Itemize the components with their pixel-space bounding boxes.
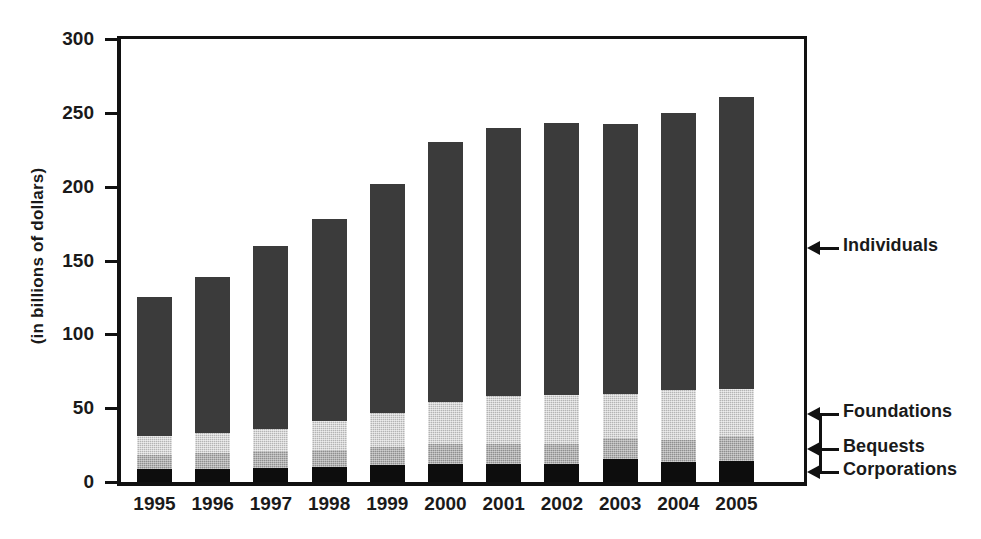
y-axis-tick-label-wrap: 200 [22, 187, 94, 188]
bar-segment-foundations [428, 402, 463, 444]
bar-segment-bequests [312, 450, 347, 467]
x-axis-label-2005: 2005 [707, 494, 767, 513]
bar-segment-bequests [603, 438, 638, 459]
y-axis-tick-label: 200 [28, 177, 94, 196]
stacked-bar-chart: (in billions of dollars) 300250200150100… [0, 0, 981, 539]
x-axis-label-2000: 2000 [416, 494, 476, 513]
bar-segment-foundations [603, 394, 638, 438]
callout-label-corporations: Corporations [843, 459, 957, 480]
callout-line [819, 413, 839, 416]
y-axis-tick [105, 260, 119, 263]
x-axis-label-2001: 2001 [474, 494, 534, 513]
y-axis-tick [105, 333, 119, 336]
bar-segment-corporations [312, 467, 347, 482]
bar-segment-corporations [486, 464, 521, 482]
bar-segment-corporations [253, 468, 288, 482]
bar-segment-bequests [253, 451, 288, 468]
bar-segment-corporations [603, 459, 638, 482]
y-axis-tick-label: 100 [28, 324, 94, 343]
bar-2005 [719, 97, 754, 482]
y-axis-tick-label: 50 [28, 398, 94, 417]
bar-1995 [137, 297, 172, 482]
bar-segment-foundations [486, 396, 521, 444]
y-axis-tick [105, 186, 119, 189]
y-axis-tick [105, 112, 119, 115]
bar-segment-foundations [544, 395, 579, 444]
y-axis-tick-label-wrap: 300 [22, 39, 94, 40]
bar-segment-individuals [195, 277, 230, 434]
callout-label-foundations: Foundations [843, 401, 952, 422]
bar-segment-corporations [370, 465, 405, 482]
x-axis-label-1995: 1995 [125, 494, 185, 513]
bar-1997 [253, 246, 288, 482]
callout-line [819, 448, 839, 451]
bar-segment-individuals [486, 128, 521, 397]
y-axis-tick-label-wrap: 50 [22, 408, 94, 409]
bar-2000 [428, 142, 463, 482]
bar-1999 [370, 184, 405, 482]
callout-stem [819, 413, 822, 472]
y-axis-tick [105, 407, 119, 410]
callout-line [819, 471, 839, 474]
bar-segment-individuals [544, 123, 579, 395]
bar-segment-foundations [312, 421, 347, 450]
bar-1996 [195, 277, 230, 482]
y-axis-tick-label: 300 [28, 29, 94, 48]
bar-segment-corporations [719, 461, 754, 482]
bar-segment-foundations [719, 389, 754, 436]
bar-segment-individuals [428, 142, 463, 402]
callout-label-individuals: Individuals [843, 235, 938, 256]
x-axis-label-1997: 1997 [241, 494, 301, 513]
bar-segment-foundations [370, 413, 405, 447]
bar-segment-foundations [137, 436, 172, 454]
bar-segment-individuals [137, 297, 172, 436]
bar-segment-bequests [719, 436, 754, 460]
bar-segment-corporations [137, 469, 172, 482]
bar-segment-individuals [719, 97, 754, 389]
bar-segment-foundations [661, 390, 696, 439]
bar-segment-individuals [661, 113, 696, 391]
x-axis-label-1996: 1996 [183, 494, 243, 513]
bar-segment-bequests [428, 444, 463, 463]
plot-area [121, 39, 804, 482]
x-axis-label-2003: 2003 [590, 494, 650, 513]
bar-segment-foundations [195, 433, 230, 453]
y-axis-tick [105, 38, 119, 41]
bar-segment-corporations [544, 464, 579, 482]
bar-segment-foundations [253, 429, 288, 451]
x-axis-line [117, 482, 807, 486]
x-axis-label-1998: 1998 [299, 494, 359, 513]
bar-segment-bequests [486, 444, 521, 463]
bar-segment-individuals [312, 219, 347, 421]
bar-segment-bequests [661, 440, 696, 462]
bar-segment-bequests [544, 444, 579, 463]
callout-label-bequests: Bequests [843, 436, 925, 457]
bar-segment-bequests [370, 447, 405, 465]
y-axis-tick-label-wrap: 100 [22, 334, 94, 335]
bar-segment-individuals [370, 184, 405, 413]
bar-segment-corporations [661, 462, 696, 482]
y-axis-tick-label-wrap: 0 [22, 482, 94, 483]
y-axis-tick-label: 150 [28, 251, 94, 270]
x-axis-label-2002: 2002 [532, 494, 592, 513]
bar-segment-bequests [195, 453, 230, 469]
bar-segment-corporations [428, 464, 463, 482]
x-axis-label-2004: 2004 [648, 494, 708, 513]
y-axis-tick-label: 0 [28, 472, 94, 491]
bar-2003 [603, 124, 638, 482]
bar-segment-bequests [137, 455, 172, 470]
y-axis-tick [105, 481, 119, 484]
bar-2002 [544, 123, 579, 482]
bar-segment-individuals [603, 124, 638, 394]
callout-line [819, 247, 839, 250]
x-axis-label-1999: 1999 [357, 494, 417, 513]
bar-2004 [661, 113, 696, 482]
y-axis-tick-label-wrap: 150 [22, 261, 94, 262]
y-axis-tick-label: 250 [28, 103, 94, 122]
bar-1998 [312, 219, 347, 482]
y-axis-tick-label-wrap: 250 [22, 113, 94, 114]
bar-2001 [486, 128, 521, 482]
bar-segment-individuals [253, 246, 288, 429]
bar-segment-corporations [195, 469, 230, 482]
